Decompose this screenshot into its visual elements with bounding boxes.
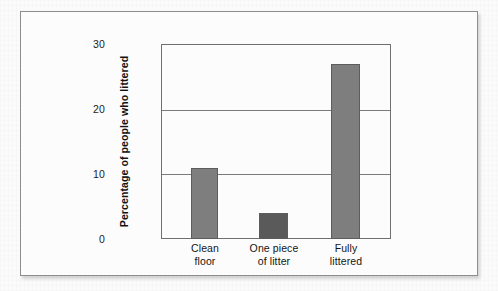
- bar-fully-littered: [331, 64, 360, 240]
- y-tick-label-30: 30: [65, 38, 105, 50]
- bar-one-piece-of-litter: [259, 213, 288, 239]
- y-tick-label-20: 20: [65, 103, 105, 115]
- bars-layer: [161, 44, 391, 239]
- x-axis-labels: Clean floor One piece of litter Fully li…: [161, 242, 391, 276]
- chart-page: Percentage of people who littered 30 20 …: [0, 0, 498, 291]
- y-axis-title: Percentage of people who littered: [117, 44, 131, 239]
- bar-slot-fully-littered: [331, 44, 360, 239]
- x-label-clean-floor: Clean floor: [165, 242, 245, 267]
- x-label-fully-littered-line2: littered: [306, 255, 386, 268]
- y-tick-label-0: 0: [65, 233, 105, 245]
- x-label-clean-floor-line1: Clean: [165, 242, 245, 255]
- y-tick-label-10: 10: [65, 168, 105, 180]
- bar-slot-one-piece-of-litter: [259, 44, 288, 239]
- x-label-clean-floor-line2: floor: [165, 255, 245, 268]
- bar-clean-floor: [191, 168, 218, 240]
- x-label-one-piece-of-litter-line1: One piece: [234, 242, 314, 255]
- x-label-one-piece-of-litter: One piece of litter: [234, 242, 314, 267]
- bar-chart: Percentage of people who littered 30 20 …: [21, 12, 479, 277]
- x-label-fully-littered: Fully littered: [306, 242, 386, 267]
- bar-slot-clean-floor: [191, 44, 218, 239]
- x-label-fully-littered-line1: Fully: [306, 242, 386, 255]
- x-label-one-piece-of-litter-line2: of litter: [234, 255, 314, 268]
- chart-figure-frame: Percentage of people who littered 30 20 …: [20, 11, 478, 276]
